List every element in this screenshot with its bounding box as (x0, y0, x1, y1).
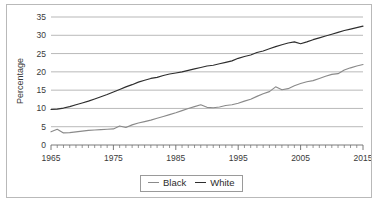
legend-item-black[interactable]: Black (148, 178, 186, 188)
x-axis-tick-label: 1975 (104, 153, 123, 163)
line-chart-plot: 05101520253035196519751985199520052015Pe… (7, 5, 371, 197)
y-axis-tick-label: 5 (41, 122, 46, 132)
series-line-white (51, 26, 363, 109)
x-axis-tick-label: 1985 (166, 153, 185, 163)
x-axis-tick-label: 1965 (42, 153, 61, 163)
legend-label-black: Black (163, 178, 186, 188)
y-axis-tick-label: 15 (37, 85, 47, 95)
legend-swatch-black (148, 182, 159, 183)
y-axis-tick-label: 20 (37, 67, 47, 77)
chart-legend: Black White (140, 175, 243, 192)
y-axis-tick-label: 10 (37, 103, 47, 113)
x-axis-tick-label: 2005 (291, 153, 310, 163)
y-axis-tick-label: 35 (37, 12, 47, 22)
y-axis-tick-label: 0 (41, 140, 46, 150)
y-axis-tick-label: 30 (37, 30, 47, 40)
chart-figure: 05101520253035196519751985199520052015Pe… (6, 4, 372, 198)
series-line-black (51, 65, 363, 133)
y-axis-tick-label: 25 (37, 49, 47, 59)
legend-item-white[interactable]: White (195, 178, 234, 188)
x-axis-tick-label: 1995 (229, 153, 248, 163)
legend-label-white: White (210, 178, 234, 188)
x-axis-tick-label: 2015 (354, 153, 371, 163)
legend-swatch-white (195, 182, 206, 183)
y-axis-title: Percentage (15, 58, 25, 104)
